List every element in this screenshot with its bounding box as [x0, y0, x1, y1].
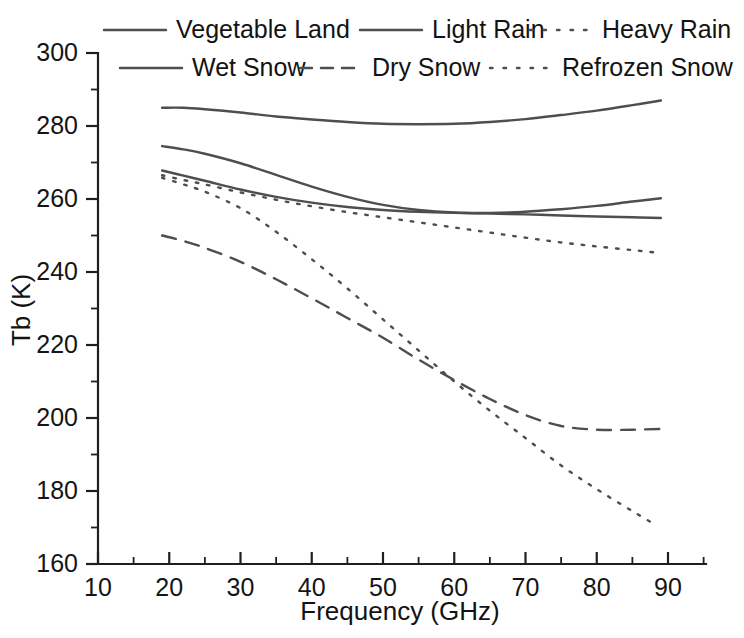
x-tick-label: 20 [155, 573, 183, 601]
y-tick-label: 160 [36, 549, 78, 577]
x-tick-label: 70 [512, 573, 540, 601]
legend-label-dry-snow: Dry Snow [372, 53, 481, 81]
chart-figure: Vegetable LandLight RainHeavy RainWet Sn… [0, 0, 744, 638]
legend-label-vegetable-land: Vegetable Land [176, 15, 350, 43]
y-axis-title: Tb (K) [6, 274, 36, 346]
y-tick-label: 260 [36, 184, 78, 212]
y-tick-label: 240 [36, 257, 78, 285]
y-tick-label: 220 [36, 330, 78, 358]
x-tick-label: 80 [583, 573, 611, 601]
y-tick-label: 180 [36, 476, 78, 504]
x-tick-label: 10 [84, 573, 112, 601]
y-tick-label: 300 [36, 38, 78, 66]
legend-label-heavy-rain: Heavy Rain [602, 15, 731, 43]
x-axis-title: Frequency (GHz) [300, 596, 499, 626]
legend-label-wet-snow: Wet Snow [192, 53, 306, 81]
y-tick-label: 280 [36, 111, 78, 139]
chart-background [0, 0, 744, 638]
legend-label-light-rain: Light Rain [432, 15, 545, 43]
tb-vs-frequency-chart: Vegetable LandLight RainHeavy RainWet Sn… [0, 0, 744, 638]
x-tick-label: 90 [654, 573, 682, 601]
y-tick-label: 200 [36, 403, 78, 431]
legend-label-refrozen-snow: Refrozen Snow [562, 53, 734, 81]
x-tick-label: 30 [227, 573, 255, 601]
